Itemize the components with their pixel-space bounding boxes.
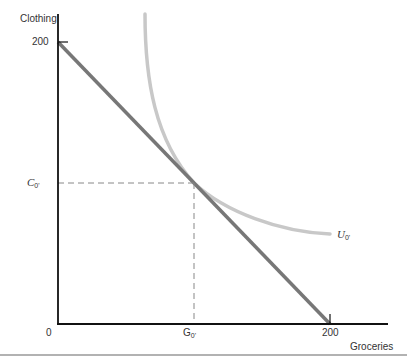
y-tick-label-200: 200 — [32, 36, 49, 47]
g0-main: G — [183, 327, 191, 338]
c0-sub: 0' — [34, 182, 39, 189]
g0-label: G0' — [183, 327, 196, 339]
x-axis-label: Groceries — [350, 341, 393, 352]
origin-label: 0 — [46, 327, 52, 338]
c0-label: C0' — [27, 176, 40, 189]
indifference-curve — [145, 14, 330, 234]
u0-label: U0' — [337, 228, 350, 241]
g0-sub: 0' — [191, 332, 196, 339]
u0-sub: 0' — [345, 234, 350, 241]
y-axis-label: Clothing — [20, 13, 57, 24]
chart-canvas — [0, 0, 407, 361]
x-tick-label-200: 200 — [322, 327, 339, 338]
u0-main: U — [337, 228, 345, 240]
